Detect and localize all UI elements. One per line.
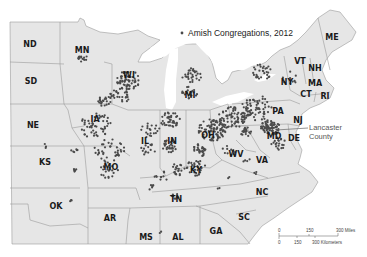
state-label-ri: RI xyxy=(320,92,329,101)
state-label-ar: AR xyxy=(104,214,116,223)
state-label-oh: OH xyxy=(201,131,215,140)
state-label-nh: NH xyxy=(308,64,321,73)
state-label-mn: MN xyxy=(75,46,90,55)
state-label-wi: WI xyxy=(123,71,135,80)
state-label-mo: MO xyxy=(104,163,119,172)
state-label-al: AL xyxy=(172,233,183,242)
state-label-il: IL xyxy=(141,137,149,146)
scale-miles-300: 300 Miles xyxy=(336,228,356,233)
scale-miles-150: 150 xyxy=(306,228,314,233)
scale-km-0: 0 xyxy=(278,240,281,245)
state-label-nd: ND xyxy=(23,40,37,49)
legend: Amish Congregations, 2012 xyxy=(181,28,294,38)
state-label-de: DE xyxy=(288,134,300,143)
state-label-ct: CT xyxy=(300,90,312,99)
state-label-pa: PA xyxy=(272,107,284,116)
state-label-ny: NY xyxy=(281,78,294,87)
scale-km-150: 150 xyxy=(294,240,302,245)
legend-label: Amish Congregations, 2012 xyxy=(188,28,293,38)
state-label-ks: KS xyxy=(39,158,51,167)
state-label-ok: OK xyxy=(50,202,64,211)
state-label-sc: SC xyxy=(238,213,250,222)
legend-dot-icon xyxy=(181,32,184,35)
state-label-va: VA xyxy=(256,156,269,165)
state-label-in: IN xyxy=(167,137,177,146)
state-label-sd: SD xyxy=(25,77,38,86)
amish-congregations-map: NDMNSDWIMINEIAILINOHPANYVTNHMEMACTRINJMD… xyxy=(0,0,367,257)
state-label-tn: TN xyxy=(170,195,182,204)
state-label-wv: WV xyxy=(228,150,244,159)
state-label-nj: NJ xyxy=(293,116,303,125)
annotation-line-1: Lancaster xyxy=(309,123,342,132)
state-label-ms: MS xyxy=(139,233,153,242)
state-label-ma: MA xyxy=(308,79,323,88)
state-label-mi: MI xyxy=(185,91,196,100)
scale-miles-0: 0 xyxy=(278,228,281,233)
scale-bar: 0 150 300 Miles 0 150 300 Kilometers xyxy=(278,228,356,245)
annotation-line-2: County xyxy=(309,132,333,141)
state-label-ky: KY xyxy=(190,166,202,175)
state-label-md: MD xyxy=(267,132,282,141)
state-label-ne: NE xyxy=(27,121,39,130)
state-label-ia: IA xyxy=(90,115,100,124)
state-label-nc: NC xyxy=(256,188,269,197)
state-label-me: ME xyxy=(325,33,338,42)
state-label-ga: GA xyxy=(210,227,224,236)
state-label-vt: VT xyxy=(294,57,306,66)
scale-km-300: 300 Kilometers xyxy=(312,240,343,245)
